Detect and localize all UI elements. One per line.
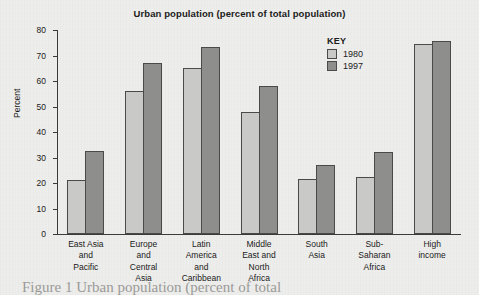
legend-entry-1980: 1980 [327,49,363,59]
bar-1980-4 [298,179,317,234]
bar-1980-6 [414,44,433,234]
bar-1997-3 [259,86,278,234]
bar-1980-3 [241,112,260,234]
x-axis-label-line: Europe [115,239,173,250]
x-axis-label: EuropeandCentralAsia [115,239,173,285]
bar-1980-2 [183,68,202,234]
y-tick-label-20: 20 [37,178,46,188]
bar-group [183,30,220,234]
x-axis-label-line: income [403,250,461,261]
page-caption-sliver: Figure 1 Urban population (percent of to… [0,281,479,295]
x-axis-label-line: Sub- [346,239,404,250]
x-axis-label: MiddleEast andNorthAfrica [230,239,288,285]
y-tick-label-60: 60 [37,76,46,86]
y-axis-line [57,30,58,235]
x-axis-label-line: Middle [230,239,288,250]
y-tick-label-70: 70 [37,51,46,61]
chart-legend: KEY 19801997 [327,36,363,71]
x-axis-label-line: East and [230,250,288,261]
x-axis-label-line: East Asia [57,239,115,250]
y-tick-mark-0: 0 [53,234,57,235]
bar-group [67,30,104,234]
legend-label: 1997 [343,61,363,71]
y-tick-label-10: 10 [37,204,46,214]
x-axis-label: Highincome [403,239,461,262]
y-tick-mark-10: 10 [53,209,57,210]
bar-1997-4 [316,165,335,234]
y-tick-mark-40: 40 [53,132,57,133]
legend-entry-1997: 1997 [327,61,363,71]
chart-figure: Urban population (percent of total popul… [0,0,479,295]
bar-group [125,30,162,234]
x-axis-label-line: High [403,239,461,250]
caption-sliver-text: Figure 1 Urban population (percent of to… [22,281,281,295]
legend-swatch-icon [327,61,337,71]
chart-title: Urban population (percent of total popul… [0,8,479,19]
y-tick-mark-60: 60 [53,81,57,82]
bar-1980-5 [356,177,375,234]
y-tick-label-0: 0 [41,229,46,239]
bar-group [241,30,278,234]
x-axis-label-line: Saharan [346,250,404,261]
bar-1997-6 [432,41,451,234]
x-axis-label-line: and [172,262,230,273]
x-axis-label-line: and [115,250,173,261]
legend-entries: 19801997 [327,49,363,71]
bar-1997-1 [143,63,162,234]
y-tick-mark-80: 80 [53,30,57,31]
x-axis-label-line: Pacific [57,262,115,273]
x-axis-label-line: Asia [288,250,346,261]
y-tick-mark-20: 20 [53,183,57,184]
bar-1997-2 [201,47,220,234]
legend-swatch-icon [327,49,337,59]
x-axis-label: SouthAsia [288,239,346,262]
x-axis-label-line: and [57,250,115,261]
plot-area: 01020304050607080 [57,30,461,235]
bar-1997-0 [85,151,104,234]
x-axis-label: East AsiaandPacific [57,239,115,273]
x-axis-label-line: Central [115,262,173,273]
y-axis-title: Percent [12,89,22,118]
y-tick-label-30: 30 [37,153,46,163]
legend-label: 1980 [343,49,363,59]
x-axis-label-line: Latin [172,239,230,250]
x-axis-label-line: North [230,262,288,273]
y-tick-mark-50: 50 [53,107,57,108]
bar-1980-1 [125,91,144,234]
bar-1980-0 [67,180,86,234]
y-tick-label-50: 50 [37,102,46,112]
x-axis-label-line: America [172,250,230,261]
y-tick-label-40: 40 [37,127,46,137]
bar-group [414,30,451,234]
y-tick-mark-30: 30 [53,158,57,159]
x-axis-label: LatinAmericaandCaribbean [172,239,230,285]
bar-1997-5 [374,152,393,234]
y-tick-label-80: 80 [37,25,46,35]
x-axis-label-line: South [288,239,346,250]
x-axis-label: Sub-SaharanAfrica [346,239,404,273]
y-tick-mark-70: 70 [53,56,57,57]
x-axis-label-line: Africa [346,262,404,273]
legend-title: KEY [327,36,363,46]
x-axis-line [57,234,461,235]
